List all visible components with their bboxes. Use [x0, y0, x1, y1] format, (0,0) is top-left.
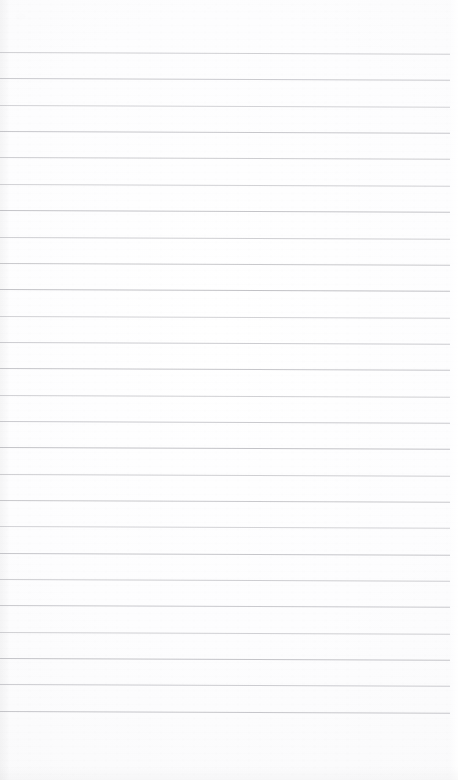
scanned-page [0, 0, 458, 780]
page-content-area[interactable] [0, 0, 458, 780]
